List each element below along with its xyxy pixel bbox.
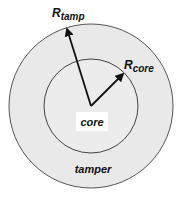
- r-tamp-label: Rtamp: [52, 6, 85, 22]
- r-core-main: R: [124, 58, 133, 72]
- r-tamp-main: R: [52, 6, 61, 20]
- r-core-sub: core: [133, 63, 155, 74]
- tamper-label: tamper: [75, 163, 112, 175]
- core-label: core: [80, 116, 103, 128]
- r-tamp-sub: tamp: [61, 11, 85, 22]
- tamper-core-diagram: Rtamp Rcore core tamper: [0, 0, 184, 200]
